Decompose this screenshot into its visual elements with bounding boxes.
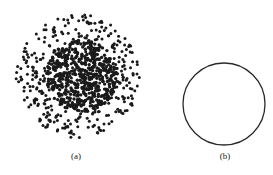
circle-panel-b [150, 40, 273, 160]
circle-outline [183, 63, 265, 145]
point-cloud-panel-a [0, 0, 150, 150]
panel-b-label: (b) [210, 151, 240, 161]
panel-a-label: (a) [61, 151, 91, 161]
